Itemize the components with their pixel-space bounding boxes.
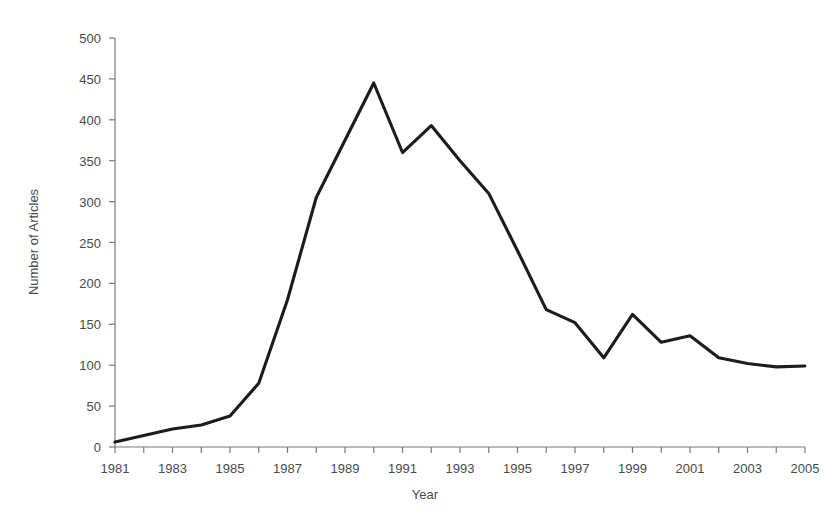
y-axis-tick-label: 500 — [79, 31, 101, 46]
x-axis-tick-label: 1981 — [101, 461, 130, 476]
x-axis-tick-label: 1989 — [331, 461, 360, 476]
y-axis-tick-label: 150 — [79, 317, 101, 332]
x-axis-tick-label: 1995 — [503, 461, 532, 476]
y-axis-tick-label: 350 — [79, 154, 101, 169]
x-axis-tick-label: 1999 — [618, 461, 647, 476]
y-axis-tick-label: 400 — [79, 113, 101, 128]
y-axis-tick-label: 300 — [79, 195, 101, 210]
x-axis-tick-label: 1985 — [216, 461, 245, 476]
y-axis-tick-label: 50 — [87, 399, 101, 414]
chart-container: 050100150200250300350400450500 198119831… — [0, 0, 834, 530]
x-axis-tick-label: 1983 — [158, 461, 187, 476]
y-axis-title: Number of Articles — [26, 188, 41, 295]
y-axis-tick-label: 100 — [79, 358, 101, 373]
x-axis-tick-label: 1987 — [273, 461, 302, 476]
chart-background — [0, 0, 834, 530]
x-axis-title: Year — [412, 487, 439, 502]
x-axis-tick-label: 1991 — [388, 461, 417, 476]
y-axis-tick-label: 0 — [94, 440, 101, 455]
x-axis-tick-label: 1997 — [561, 461, 590, 476]
y-axis-tick-label: 450 — [79, 72, 101, 87]
x-axis-tick-label: 2001 — [676, 461, 705, 476]
x-axis-tick-label: 1993 — [446, 461, 475, 476]
x-axis-tick-label: 2003 — [733, 461, 762, 476]
y-axis-tick-label: 250 — [79, 236, 101, 251]
line-chart: 050100150200250300350400450500 198119831… — [0, 0, 834, 530]
y-axis-tick-label: 200 — [79, 276, 101, 291]
x-axis-tick-label: 2005 — [791, 461, 820, 476]
